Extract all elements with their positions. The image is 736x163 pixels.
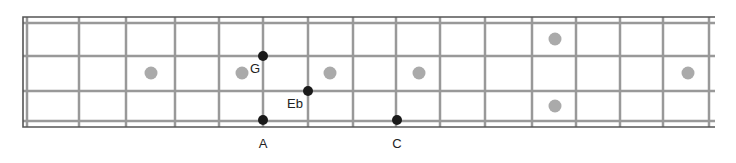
- fretboard-diagram: [0, 0, 736, 163]
- inlay-dot-icon: [145, 67, 158, 80]
- inlay-dot-icon: [413, 67, 426, 80]
- inlay-dot-icon: [549, 100, 562, 113]
- note-marker-a: [258, 115, 268, 125]
- inlay-dot-icon: [549, 33, 562, 46]
- note-label-c: C: [392, 136, 401, 151]
- note-marker-c: [392, 115, 402, 125]
- note-label-g: G: [250, 61, 260, 76]
- note-marker-g: [258, 51, 268, 61]
- note-label-a: A: [259, 136, 268, 151]
- note-label-eb: Eb: [287, 96, 303, 111]
- inlay-dot-icon: [236, 67, 249, 80]
- inlay-dot-icon: [324, 67, 337, 80]
- inlay-dot-icon: [682, 67, 695, 80]
- note-marker-eb: [303, 86, 313, 96]
